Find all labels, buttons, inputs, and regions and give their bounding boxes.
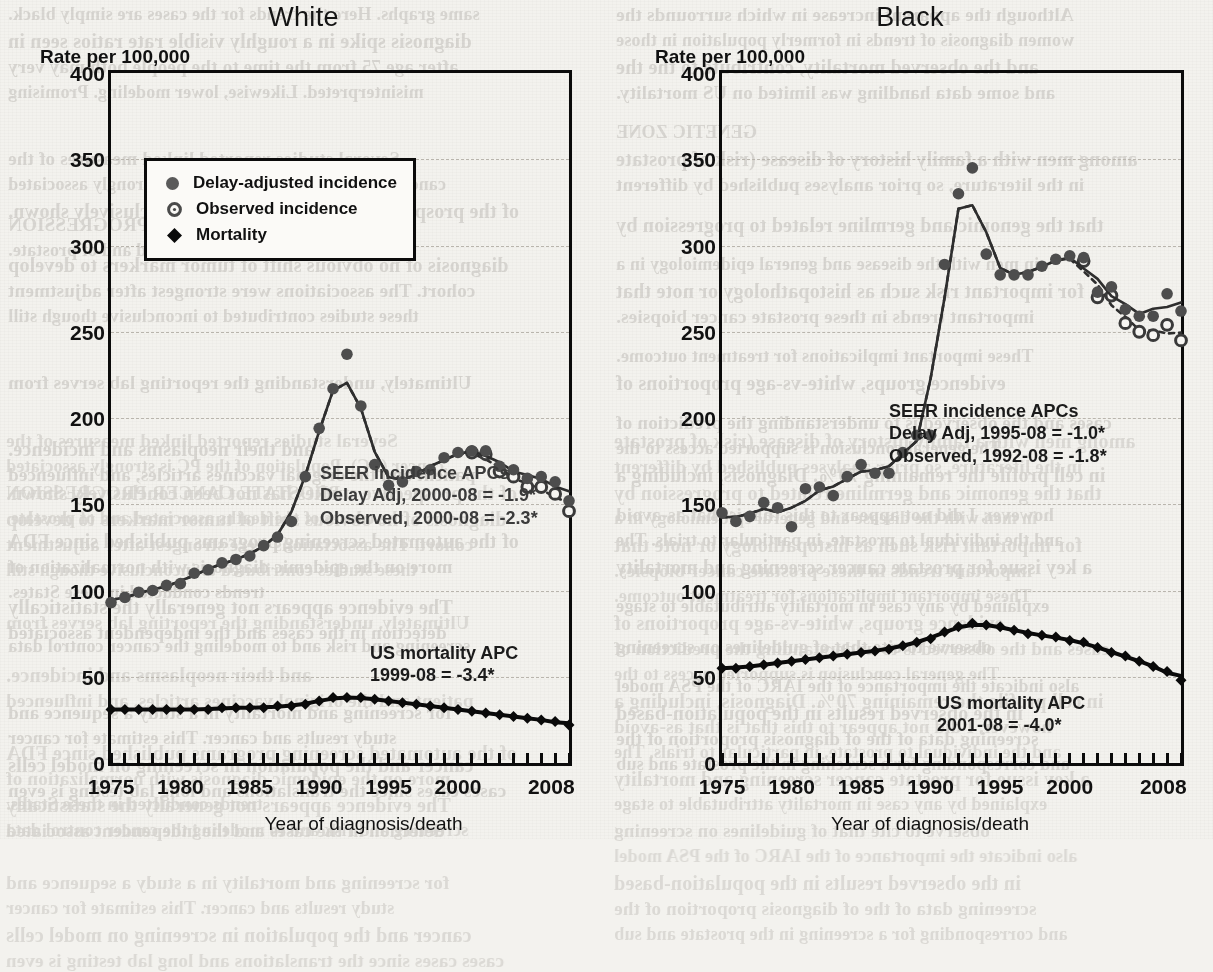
- data-point-marker: [883, 644, 894, 655]
- data-point-marker: [1092, 642, 1103, 653]
- data-point-marker: [1050, 632, 1061, 643]
- x-axis-tick-label: 1995: [365, 776, 412, 797]
- data-point-marker: [230, 554, 242, 566]
- page-title-black: Black: [607, 2, 1213, 33]
- data-point-marker: [855, 459, 867, 471]
- data-point-marker: [730, 663, 741, 674]
- data-point-marker: [841, 471, 853, 483]
- data-point-marker: [341, 348, 353, 360]
- data-point-marker: [203, 704, 214, 715]
- y-axis-tick-label: 50: [82, 666, 105, 687]
- annotation-line: SEER incidence APCs: [320, 462, 538, 484]
- data-point-marker: [369, 694, 380, 705]
- chart-legend: Delay-adjusted incidenceObserved inciden…: [144, 158, 416, 261]
- data-point-marker: [814, 481, 826, 493]
- us-mortality-apc-annotation-black: US mortality APC2001-08 = -4.0*: [937, 692, 1085, 737]
- annotation-line: Delay Adj, 2000-08 = -1.9*: [320, 484, 538, 506]
- seer-incidence-apc-annotation-white: SEER incidence APCsDelay Adj, 2000-08 = …: [320, 462, 538, 529]
- y-axis-tick-label: 50: [693, 666, 716, 687]
- data-point-marker: [716, 507, 728, 519]
- data-point-marker: [272, 701, 283, 712]
- data-point-marker: [814, 652, 825, 663]
- data-point-marker: [758, 659, 769, 670]
- data-point-marker: [119, 704, 130, 715]
- data-point-marker: [800, 654, 811, 665]
- y-axis-tick-label: 250: [70, 321, 105, 342]
- x-axis-title-black: Year of diagnosis/death: [607, 813, 1213, 835]
- series-delay-adjusted-incidence: [716, 162, 1187, 532]
- data-point-marker: [313, 423, 325, 435]
- data-point-marker: [175, 578, 187, 590]
- annotation-line: US mortality APC: [370, 642, 518, 664]
- x-axis-tick-label: 2000: [435, 776, 482, 797]
- annotation-line: US mortality APC: [937, 692, 1085, 714]
- data-point-marker: [258, 540, 270, 552]
- bleed-text-line: and corresponding for a screening in the…: [614, 924, 1068, 945]
- filled-black-diamond-marker-icon: [161, 228, 187, 243]
- data-point-marker: [744, 661, 755, 672]
- data-point-marker: [355, 400, 367, 412]
- data-point-marker: [272, 531, 284, 543]
- series-observed-incidence: [722, 205, 1186, 517]
- y-axis-tick-label: 300: [70, 235, 105, 256]
- data-point-marker: [188, 567, 200, 579]
- data-point-marker: [856, 647, 867, 658]
- data-point-marker: [202, 564, 214, 576]
- bleed-text-line: also indicate the importance of the IARC…: [614, 846, 1077, 867]
- annotation-line: Observed, 1992-08 = -1.8*: [889, 445, 1107, 467]
- data-point-marker: [494, 709, 505, 720]
- data-point-marker: [758, 497, 770, 509]
- data-point-marker: [1133, 310, 1145, 322]
- data-point-marker: [1175, 305, 1187, 317]
- y-axis-tick-label: 200: [70, 408, 105, 429]
- data-point-marker: [1064, 635, 1075, 646]
- data-point-marker: [1092, 286, 1104, 298]
- data-point-marker: [827, 490, 839, 502]
- bleed-text-line: in the observed results in the populatio…: [614, 872, 1021, 895]
- data-point-marker: [1008, 269, 1020, 281]
- data-point-marker: [717, 663, 728, 674]
- x-axis-tick-label: 1980: [157, 776, 204, 797]
- open-circle-marker-icon: [161, 202, 187, 217]
- data-point-marker: [286, 701, 297, 712]
- data-point-marker: [744, 511, 756, 523]
- data-point-marker: [550, 489, 561, 500]
- data-point-marker: [1148, 330, 1159, 341]
- x-axis-tick-label: 1995: [977, 776, 1024, 797]
- data-point-marker: [549, 476, 561, 488]
- y-axis-tick-label: 400: [681, 63, 716, 84]
- legend-item: Mortality: [161, 222, 397, 248]
- data-point-marker: [730, 516, 742, 528]
- data-point-marker: [800, 483, 812, 495]
- data-point-marker: [328, 692, 339, 703]
- data-point-marker: [953, 188, 965, 200]
- data-point-marker: [105, 597, 117, 609]
- data-point-marker: [772, 657, 783, 668]
- data-point-marker: [452, 704, 463, 715]
- x-axis-tick-label: 1980: [768, 776, 815, 797]
- data-point-marker: [1120, 318, 1131, 329]
- bleed-text-line: study results and cancer. This estimate …: [6, 898, 394, 919]
- y-axis-tick-label: 0: [704, 753, 716, 774]
- legend-item: Observed incidence: [161, 196, 397, 222]
- data-point-marker: [772, 502, 784, 514]
- data-point-marker: [994, 269, 1006, 281]
- data-point-marker: [564, 506, 575, 517]
- data-point-marker: [244, 550, 256, 562]
- data-point-marker: [244, 702, 255, 713]
- data-point-marker: [995, 621, 1006, 632]
- data-point-marker: [1106, 281, 1118, 293]
- data-point-marker: [1036, 260, 1048, 272]
- legend-item: Delay-adjusted incidence: [161, 170, 397, 196]
- x-axis-tick-label: 1990: [907, 776, 954, 797]
- legend-item-label: Mortality: [196, 225, 267, 245]
- data-point-marker: [522, 713, 533, 724]
- data-point-marker: [216, 557, 228, 569]
- y-axis-title-white: Rate per 100,000: [40, 46, 190, 68]
- y-axis-tick-label: 150: [70, 494, 105, 515]
- data-point-marker: [1134, 326, 1145, 337]
- chart-panel-white: White Rate per 100,000 05010015020025030…: [0, 0, 607, 839]
- bleed-text-line: screening data of the of diagnosis propo…: [614, 898, 1036, 920]
- data-point-marker: [939, 259, 951, 271]
- data-point-marker: [911, 637, 922, 648]
